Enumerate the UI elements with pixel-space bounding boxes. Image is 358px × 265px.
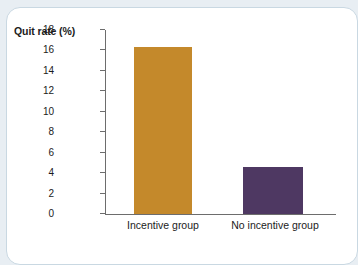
y-axis-tick-mark <box>100 29 105 30</box>
y-axis-tick-mark <box>100 213 105 214</box>
y-axis-tick-label: 6 <box>28 146 54 159</box>
y-axis-tick-mark <box>100 172 105 173</box>
y-axis-tick-mark <box>100 131 105 132</box>
bar-2 <box>243 167 303 214</box>
y-axis-tick-label: 4 <box>28 166 54 179</box>
x-axis-category-label: Incentive group <box>108 219 218 231</box>
x-axis-line <box>105 214 336 215</box>
y-axis-line <box>105 30 106 215</box>
y-axis-tick-label: 2 <box>28 187 54 200</box>
y-axis-tick-label: 12 <box>28 84 54 97</box>
y-axis-tick-label: 14 <box>28 64 54 77</box>
y-axis-tick-label: 0 <box>28 207 54 220</box>
y-axis-tick-mark <box>100 152 105 153</box>
y-axis-tick-label: 10 <box>28 105 54 118</box>
x-axis-category-label: No incentive group <box>215 219 335 231</box>
y-axis-tick-label: 18 <box>28 23 54 36</box>
bar-1 <box>134 47 192 214</box>
y-axis-tick-mark <box>100 193 105 194</box>
y-axis-tick-label: 16 <box>28 43 54 56</box>
y-axis-tick-label: 8 <box>28 125 54 138</box>
y-axis-tick-mark <box>100 70 105 71</box>
y-axis-tick-mark <box>100 49 105 50</box>
y-axis-tick-mark <box>100 111 105 112</box>
y-axis-tick-mark <box>100 90 105 91</box>
